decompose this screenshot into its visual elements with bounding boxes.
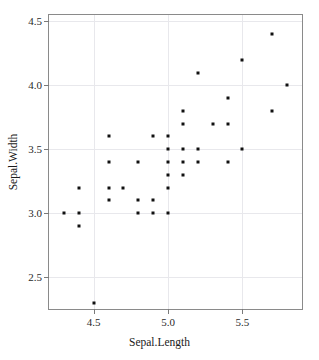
data-point — [167, 173, 170, 176]
data-point — [167, 148, 170, 151]
data-point — [77, 224, 80, 227]
gridline-horizontal — [49, 149, 302, 150]
data-point — [241, 58, 244, 61]
data-point — [226, 97, 229, 100]
data-point — [196, 71, 199, 74]
y-axis-tick — [44, 21, 49, 22]
data-point — [152, 135, 155, 138]
data-point — [137, 161, 140, 164]
data-point — [196, 148, 199, 151]
scatter-plot: 2.53.03.54.04.54.55.05.5 Sepal.Width Sep… — [0, 0, 319, 360]
gridline-horizontal — [49, 277, 302, 278]
data-point — [77, 186, 80, 189]
data-point — [107, 186, 110, 189]
y-axis-tick — [44, 277, 49, 278]
data-point — [122, 186, 125, 189]
data-point — [107, 135, 110, 138]
data-point — [137, 199, 140, 202]
y-axis-tick — [44, 213, 49, 214]
data-point — [211, 122, 214, 125]
x-axis-tick-label: 5.0 — [161, 316, 175, 328]
data-point — [167, 161, 170, 164]
data-point — [181, 109, 184, 112]
data-point — [181, 161, 184, 164]
gridline-horizontal — [49, 85, 302, 86]
y-axis-tick-label: 4.5 — [28, 15, 42, 27]
y-axis-tick-label: 4.0 — [28, 79, 42, 91]
data-point — [226, 122, 229, 125]
gridline-vertical — [94, 15, 95, 309]
data-point — [62, 212, 65, 215]
data-point — [167, 212, 170, 215]
y-axis-tick-label: 3.5 — [28, 143, 42, 155]
data-point — [286, 84, 289, 87]
data-point — [152, 199, 155, 202]
x-axis-tick — [242, 309, 243, 314]
x-axis-tick-label: 4.5 — [87, 316, 101, 328]
y-axis-tick — [44, 85, 49, 86]
data-point — [181, 173, 184, 176]
data-point — [167, 186, 170, 189]
data-point — [271, 109, 274, 112]
y-axis-title-text: Sepal.Width — [7, 134, 19, 191]
y-axis-tick — [44, 149, 49, 150]
data-point — [137, 212, 140, 215]
plot-panel: 2.53.03.54.04.54.55.05.5 — [48, 14, 303, 310]
x-axis-tick-label: 5.5 — [236, 316, 250, 328]
data-point — [92, 301, 95, 304]
gridline-horizontal — [49, 213, 302, 214]
data-point — [77, 212, 80, 215]
x-axis-title: Sepal.Length — [0, 336, 319, 348]
data-point — [167, 135, 170, 138]
x-axis-tick — [94, 309, 95, 314]
data-point — [241, 148, 244, 151]
data-point — [107, 161, 110, 164]
y-axis-tick-label: 2.5 — [28, 271, 42, 283]
x-axis-tick — [168, 309, 169, 314]
data-point — [181, 122, 184, 125]
data-point — [181, 148, 184, 151]
data-point — [271, 33, 274, 36]
data-point — [152, 212, 155, 215]
y-axis-tick-label: 3.0 — [28, 207, 42, 219]
data-point — [196, 161, 199, 164]
data-point — [226, 161, 229, 164]
data-point — [107, 199, 110, 202]
y-axis-title: Sepal.Width — [6, 0, 20, 324]
gridline-horizontal — [49, 21, 302, 22]
